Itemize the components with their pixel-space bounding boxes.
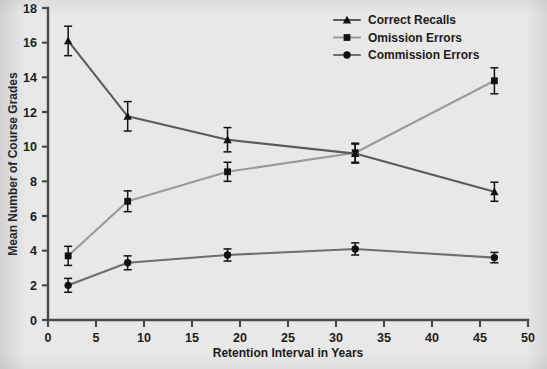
line-chart: 024681012141618 05101520253035404550 Cor… — [0, 0, 547, 369]
marker-square — [224, 168, 231, 175]
marker-circle — [491, 254, 498, 261]
legend-label: Correct Recalls — [368, 13, 456, 27]
x-tick-label: 20 — [233, 331, 247, 345]
marker-circle — [224, 251, 231, 258]
marker-square — [344, 34, 351, 41]
chart-container: 024681012141618 05101520253035404550 Cor… — [0, 0, 547, 369]
legend-label: Commission Errors — [368, 48, 480, 62]
y-tick-label: 6 — [30, 210, 37, 224]
x-tick-label: 25 — [281, 331, 295, 345]
y-tick-label: 14 — [23, 71, 37, 85]
x-tick-label: 45 — [473, 331, 487, 345]
x-tick-label: 50 — [521, 331, 535, 345]
x-tick-label: 10 — [137, 331, 151, 345]
x-tick-label: 35 — [377, 331, 391, 345]
y-axis-title: Mean Number of Course Grades — [6, 72, 20, 256]
y-tick-label: 18 — [23, 2, 37, 16]
marker-square — [124, 198, 131, 205]
marker-circle — [124, 259, 131, 266]
x-tick-label: 30 — [329, 331, 343, 345]
y-tick-label: 4 — [30, 244, 37, 258]
marker-circle — [352, 245, 359, 252]
x-tick-label: 0 — [45, 331, 52, 345]
marker-circle — [343, 51, 350, 58]
x-tick-label: 15 — [185, 331, 199, 345]
marker-square — [65, 252, 72, 259]
marker-square — [491, 77, 498, 84]
y-tick-label: 10 — [23, 140, 37, 154]
y-tick-label: 12 — [23, 106, 37, 120]
x-tick-label: 40 — [425, 331, 439, 345]
x-axis-title: Retention Interval in Years — [213, 346, 364, 360]
y-tick-label: 0 — [30, 314, 37, 328]
x-tick-label: 5 — [93, 331, 100, 345]
y-tick-label: 16 — [23, 36, 37, 50]
legend-label: Omission Errors — [368, 31, 462, 45]
y-tick-label: 2 — [30, 279, 37, 293]
y-tick-label: 8 — [30, 175, 37, 189]
marker-circle — [64, 282, 71, 289]
